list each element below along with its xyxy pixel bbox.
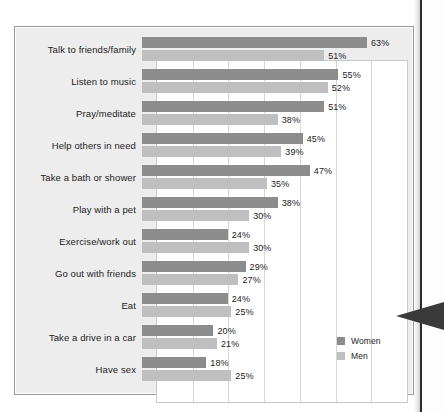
category-label: Listen to music [15, 77, 142, 87]
bar-men [142, 178, 267, 189]
row-bars: 63%51% [142, 34, 413, 66]
legend-swatch-women [337, 337, 345, 345]
bar-value-label: 38% [282, 115, 300, 125]
chart-row: Play with a pet38%30% [15, 194, 413, 226]
bar-group-men: 35% [142, 178, 289, 189]
chart-row: Talk to friends/family63%51% [15, 34, 413, 66]
bar-group-women: 18% [142, 357, 229, 368]
bar-value-label: 30% [253, 243, 271, 253]
pointer-triangle-icon [396, 302, 444, 330]
bar-women [142, 133, 303, 144]
chart-panel: Talk to friends/family63%51%Listen to mu… [14, 26, 414, 395]
chart-row: Listen to music55%52% [15, 66, 413, 98]
row-bars: 38%30% [142, 194, 413, 226]
bar-value-label: 29% [250, 262, 268, 272]
bar-women [142, 69, 338, 80]
category-label: Play with a pet [15, 205, 142, 215]
row-bars: 24%25% [142, 290, 413, 322]
category-label: Pray/meditate [15, 109, 142, 119]
bar-value-label: 47% [314, 166, 332, 176]
bar-women [142, 293, 228, 304]
row-bars: 55%52% [142, 66, 413, 98]
category-label: Exercise/work out [15, 237, 142, 247]
category-label: Take a drive in a car [15, 333, 142, 343]
bar-value-label: 51% [328, 102, 346, 112]
bar-group-women: 45% [142, 133, 325, 144]
category-label: Eat [15, 301, 142, 311]
row-bars: 47%35% [142, 162, 413, 194]
bar-value-label: 18% [210, 358, 228, 368]
bar-group-men: 27% [142, 274, 261, 285]
legend-item-men: Men [337, 349, 381, 362]
bar-group-men: 25% [142, 370, 254, 381]
category-label: Take a bath or shower [15, 173, 142, 183]
bar-men [142, 82, 328, 93]
row-bars: 45%39% [142, 130, 413, 162]
bar-women [142, 229, 228, 240]
bar-value-label: 51% [328, 51, 346, 61]
bar-women [142, 357, 206, 368]
bar-group-women: 24% [142, 293, 250, 304]
bar-men [142, 114, 278, 125]
chart-row: Help others in need45%39% [15, 130, 413, 162]
bar-group-women: 24% [142, 229, 250, 240]
bar-value-label: 39% [285, 147, 303, 157]
bar-value-label: 63% [371, 38, 389, 48]
bar-group-women: 55% [142, 69, 361, 80]
legend-label-men: Men [351, 351, 368, 361]
bar-women [142, 261, 246, 272]
bar-value-label: 30% [253, 211, 271, 221]
bar-value-label: 55% [342, 70, 360, 80]
row-bars: 29%27% [142, 258, 413, 290]
bar-value-label: 21% [221, 339, 239, 349]
chart-row: Take a bath or shower47%35% [15, 162, 413, 194]
bar-group-women: 29% [142, 261, 268, 272]
legend-label-women: Women [351, 336, 381, 346]
bar-group-women: 51% [142, 101, 346, 112]
bar-group-women: 47% [142, 165, 332, 176]
bar-value-label: 27% [242, 275, 260, 285]
row-bars: 51%38% [142, 98, 413, 130]
bar-group-women: 38% [142, 197, 300, 208]
legend-item-women: Women [337, 334, 381, 347]
page-spine-line [420, 0, 422, 412]
bar-men [142, 274, 238, 285]
bar-group-men: 21% [142, 338, 239, 349]
bar-group-men: 39% [142, 146, 304, 157]
bar-group-men: 51% [142, 50, 346, 61]
bar-men [142, 146, 281, 157]
scanned-page: Talk to friends/family63%51%Listen to mu… [0, 0, 444, 412]
bar-value-label: 20% [217, 326, 235, 336]
bar-women [142, 325, 213, 336]
chart-row: Eat24%25% [15, 290, 413, 322]
bar-group-men: 30% [142, 242, 271, 253]
bar-men [142, 50, 324, 61]
bar-men [142, 306, 231, 317]
row-bars: 24%30% [142, 226, 413, 258]
bar-group-women: 20% [142, 325, 236, 336]
legend-swatch-men [337, 352, 345, 360]
bar-group-men: 38% [142, 114, 300, 125]
bar-men [142, 242, 249, 253]
bar-value-label: 24% [232, 230, 250, 240]
bar-value-label: 35% [271, 179, 289, 189]
category-label: Have sex [15, 365, 142, 375]
bar-women [142, 197, 278, 208]
bar-group-women: 63% [142, 37, 389, 48]
bar-group-men: 25% [142, 306, 254, 317]
chart-row: Pray/meditate51%38% [15, 98, 413, 130]
category-label: Help others in need [15, 141, 142, 151]
bar-value-label: 45% [307, 134, 325, 144]
bar-women [142, 101, 324, 112]
category-label: Go out with friends [15, 269, 142, 279]
chart-row: Exercise/work out24%30% [15, 226, 413, 258]
bar-group-men: 52% [142, 82, 350, 93]
bar-value-label: 25% [235, 371, 253, 381]
category-label: Talk to friends/family [15, 45, 142, 55]
bar-value-label: 38% [282, 198, 300, 208]
bar-women [142, 37, 367, 48]
bar-group-men: 30% [142, 210, 271, 221]
bar-women [142, 165, 310, 176]
bar-men [142, 370, 231, 381]
bar-value-label: 52% [332, 83, 350, 93]
